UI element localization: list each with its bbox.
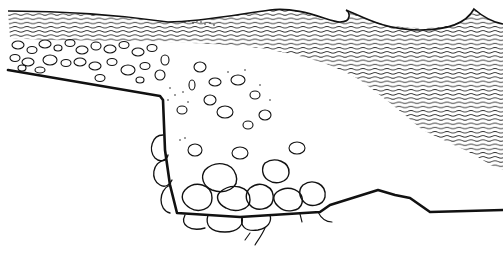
sand-particles (167, 69, 271, 141)
scattered-stones (177, 62, 305, 159)
boulder-pile (182, 160, 325, 211)
rubble-layer (10, 40, 169, 84)
illustration (0, 0, 503, 255)
cross-section-drawing (0, 0, 503, 255)
